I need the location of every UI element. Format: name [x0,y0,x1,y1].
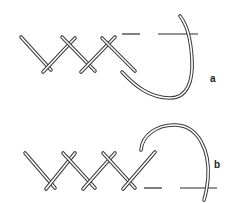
stitches-a [21,37,135,72]
stitch-diagram-a [0,0,234,203]
stitches-b [25,152,155,189]
panel-label-a: a [210,74,216,84]
panel-label-b: b [214,160,220,170]
